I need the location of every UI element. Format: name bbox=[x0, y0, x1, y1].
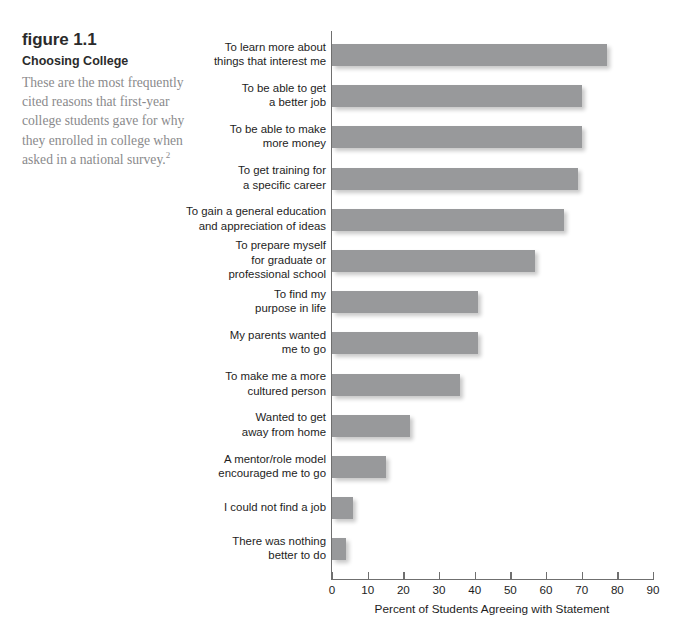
x-axis-tick-label: 80 bbox=[602, 583, 632, 596]
category-label: To prepare myself for graduate or profes… bbox=[146, 238, 326, 282]
bar bbox=[332, 291, 478, 313]
category-label: My parents wanted me to go bbox=[146, 328, 326, 357]
bar bbox=[332, 538, 346, 560]
x-axis-tick bbox=[653, 572, 654, 580]
bar bbox=[332, 456, 386, 478]
category-label: To learn more about things that interest… bbox=[146, 40, 326, 69]
x-axis-line bbox=[331, 579, 653, 580]
x-axis-tick bbox=[582, 572, 583, 580]
x-axis-tick-label: 10 bbox=[353, 583, 383, 596]
x-axis-tick bbox=[617, 572, 618, 580]
x-axis-title: Percent of Students Agreeing with Statem… bbox=[331, 602, 653, 616]
x-axis-tick-label: 30 bbox=[424, 583, 454, 596]
category-label: Wanted to get away from home bbox=[146, 410, 326, 439]
category-label: A mentor/role model encouraged me to go bbox=[146, 452, 326, 481]
category-label: I could not find a job bbox=[146, 500, 326, 515]
bar bbox=[332, 44, 607, 66]
bar bbox=[332, 126, 582, 148]
bar bbox=[332, 415, 410, 437]
category-label: To be able to get a better job bbox=[146, 81, 326, 110]
category-label: To get training for a specific career bbox=[146, 163, 326, 192]
bar-chart: To learn more about things that interest… bbox=[0, 0, 688, 640]
x-axis-tick bbox=[510, 572, 511, 580]
bar bbox=[332, 374, 460, 396]
x-axis-tick-label: 0 bbox=[317, 583, 347, 596]
x-axis-tick bbox=[332, 572, 333, 580]
category-label: To gain a general education and apprecia… bbox=[146, 204, 326, 233]
category-label: There was nothing better to do bbox=[146, 534, 326, 563]
bar bbox=[332, 497, 353, 519]
x-axis-tick-label: 50 bbox=[495, 583, 525, 596]
x-axis-tick bbox=[403, 572, 404, 580]
x-axis-tick bbox=[368, 572, 369, 580]
bar bbox=[332, 168, 578, 190]
bar bbox=[332, 209, 564, 231]
bar bbox=[332, 85, 582, 107]
bar bbox=[332, 250, 535, 272]
bar bbox=[332, 332, 478, 354]
x-axis-tick-label: 40 bbox=[460, 583, 490, 596]
category-label: To find my purpose in life bbox=[146, 287, 326, 316]
x-axis-tick-label: 70 bbox=[567, 583, 597, 596]
x-axis-tick-label: 90 bbox=[638, 583, 668, 596]
x-axis-tick-label: 60 bbox=[531, 583, 561, 596]
x-axis-tick bbox=[439, 572, 440, 580]
category-label: To be able to make more money bbox=[146, 122, 326, 151]
x-axis-tick bbox=[475, 572, 476, 580]
x-axis-tick-label: 20 bbox=[388, 583, 418, 596]
x-axis-tick bbox=[546, 572, 547, 580]
category-label: To make me a more cultured person bbox=[146, 369, 326, 398]
